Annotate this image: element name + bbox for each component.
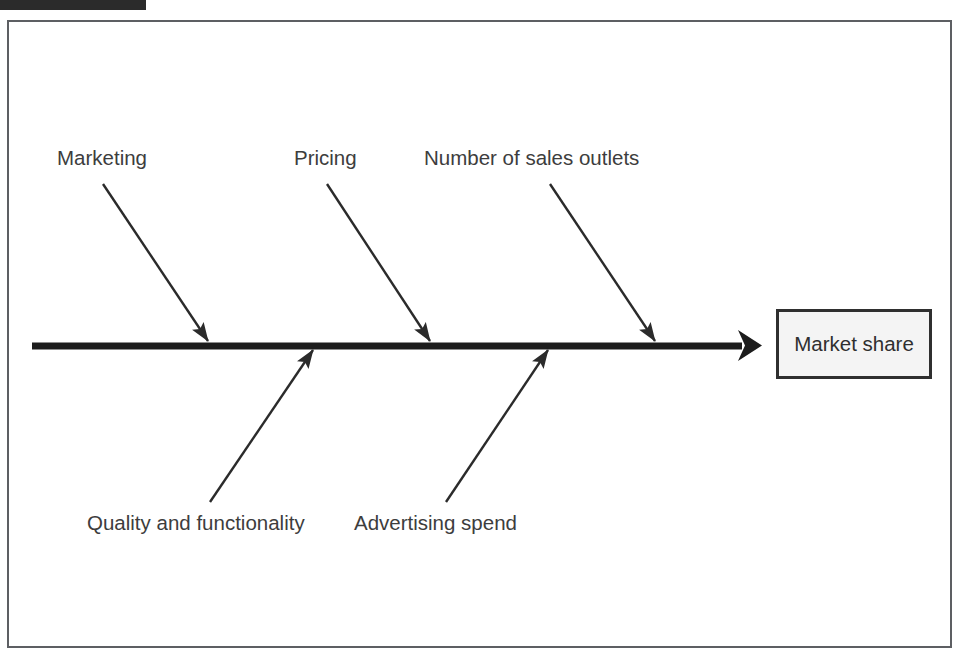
- cause-label-marketing: Marketing: [57, 148, 147, 169]
- cause-label-quality: Quality and functionality: [87, 513, 305, 534]
- cropped-header-bar: [0, 0, 146, 10]
- cause-label-advertising: Advertising spend: [354, 513, 517, 534]
- effect-box: Market share: [776, 309, 932, 379]
- cause-label-sales-outlets: Number of sales outlets: [424, 148, 639, 169]
- cause-label-pricing: Pricing: [294, 148, 357, 169]
- effect-box-label: Market share: [794, 332, 914, 356]
